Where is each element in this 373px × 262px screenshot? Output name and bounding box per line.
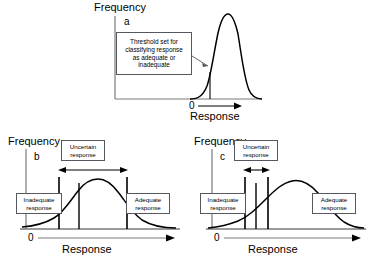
panel-b: Frequency b 0 Response Uncertain respons… (0, 125, 187, 262)
panel-b-adequate-label: Adequate response (126, 193, 170, 214)
panel-b-letter: b (34, 151, 40, 162)
panel-a-threshold-callout: Threshold set for classifying response a… (116, 32, 192, 75)
panel-a-letter: a (124, 16, 130, 27)
panel-c-x-axis-title: Response (248, 243, 298, 255)
panel-c: Frequency c 0 Response Uncertain respons… (186, 125, 373, 262)
panel-a-leader-line (192, 56, 208, 66)
panel-c-inadequate-label: Inadequate response (200, 193, 246, 214)
panel-c-uncertain-arrowhead-left (243, 167, 251, 173)
panel-b-inadequate-label: Inadequate response (16, 193, 62, 214)
panel-a-curve (190, 14, 262, 99)
panel-a-x-axis-title: Response (190, 110, 240, 122)
panel-c-response-arrowhead (352, 235, 361, 242)
panel-a-response-arrowhead (234, 103, 242, 110)
panel-b-uncertain-arrowhead-left (58, 167, 66, 173)
panel-c-letter: c (220, 151, 225, 162)
panel-a: Frequency a 0 Response Threshold set for… (0, 0, 373, 125)
panel-b-uncertain-label: Uncertain response (61, 140, 105, 161)
panel-c-uncertain-arrowhead-right (262, 167, 270, 173)
panel-b-uncertain-arrowhead-right (120, 167, 128, 173)
panel-b-x-axis-title: Response (62, 243, 112, 255)
panel-b-y-axis-title: Frequency (8, 135, 60, 147)
panel-c-zero-label: 0 (214, 232, 220, 243)
panel-a-y-axis-title: Frequency (94, 1, 146, 13)
panel-b-response-arrowhead (166, 235, 175, 242)
panel-c-adequate-label: Adequate response (312, 193, 356, 214)
panel-b-zero-label: 0 (28, 232, 34, 243)
figure-container: Frequency a 0 Response Threshold set for… (0, 0, 373, 262)
panel-c-uncertain-label: Uncertain response (234, 140, 278, 161)
